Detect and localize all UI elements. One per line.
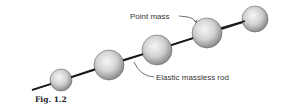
point-mass-4: [192, 18, 222, 48]
point-mass-3: [142, 35, 172, 65]
point-mass-label: Point mass: [130, 12, 170, 21]
point-mass-leader: [179, 16, 196, 22]
point-mass-5: [242, 6, 268, 32]
figure-caption: Fig. 1.2: [35, 95, 67, 104]
elastic-rod-label: Elastic massless rod: [156, 73, 229, 82]
point-mass-rod-diagram: Point mass Elastic massless rod Fig. 1.2: [0, 0, 282, 106]
point-mass-2: [94, 50, 124, 80]
point-mass-1: [50, 69, 72, 91]
elastic-rod-leader: [134, 62, 154, 77]
